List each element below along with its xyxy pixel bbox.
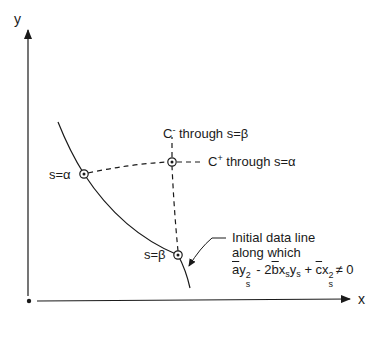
c-minus-label: C- through s=β: [163, 127, 248, 141]
x-axis: [37, 299, 350, 301]
initial-data-curve: [58, 122, 190, 288]
c-plus-text: through s=α: [223, 154, 296, 169]
origin-dot: [27, 299, 31, 303]
point-alpha-marker: [80, 170, 88, 178]
c-plus-base: C: [208, 154, 217, 169]
annotation-line-1: Initial data line: [232, 231, 315, 245]
point-beta-marker: [174, 251, 182, 259]
y-axis-label: y: [14, 12, 21, 26]
c-minus-characteristic: [172, 166, 178, 251]
point-beta-label: s=β: [144, 248, 166, 262]
c-plus-label: C+ through s=α: [208, 155, 296, 169]
annotation-leader-arrow: [189, 238, 226, 266]
point-alpha-label: s=α: [49, 168, 71, 182]
annotation-equation: ay2s - 2bxsys + cx2s≠ 0: [232, 263, 354, 277]
annotation-line-2: along which: [232, 246, 301, 260]
c-minus-base: C: [163, 126, 172, 141]
c-minus-text: through s=β: [175, 126, 248, 141]
x-axis-label: x: [358, 292, 365, 306]
c-plus-characteristic: [88, 162, 168, 173]
point-intersection-marker: [168, 158, 176, 166]
